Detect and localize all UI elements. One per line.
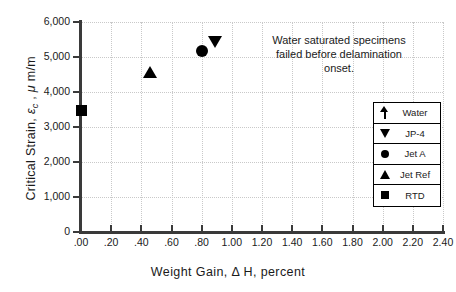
x-axis-tick — [291, 225, 293, 232]
legend-item-rtd[interactable]: RTD — [374, 185, 440, 206]
chart-figure: Critical Strain, εc , μ m/m Weight Gain,… — [0, 0, 456, 292]
y-axis-tick — [73, 231, 80, 233]
x-axis-tick — [412, 225, 414, 232]
chart-legend: Water JP-4 Jet A Jet Ref RTD — [373, 102, 441, 207]
data-point-rtd — [76, 105, 87, 116]
legend-item-jet-ref[interactable]: Jet Ref — [374, 165, 440, 186]
legend-label: Jet Ref — [392, 169, 440, 180]
y-axis-tick — [73, 126, 80, 128]
triangle-up-icon — [377, 170, 392, 179]
y-axis-tick-label: 2,000 — [26, 155, 70, 167]
gridline-vertical — [443, 22, 444, 232]
x-axis-tick — [261, 225, 263, 232]
legend-item-jet-a[interactable]: Jet A — [374, 144, 440, 165]
x-axis-tick — [442, 225, 444, 232]
x-axis-tick — [321, 225, 323, 232]
circle-icon — [377, 150, 392, 158]
y-axis-tick — [73, 196, 80, 198]
y-axis-tick-label: 1,000 — [26, 190, 70, 202]
data-point-jet-a — [196, 45, 208, 57]
x-axis-tick — [382, 225, 384, 232]
x-axis-tick — [231, 225, 233, 232]
gridline-horizontal — [81, 92, 443, 93]
y-axis-tick-label: 4,000 — [26, 85, 70, 97]
data-point-jp-4 — [208, 36, 222, 48]
annotation-line-3: onset. — [236, 61, 442, 75]
y-axis-tick — [73, 56, 80, 58]
x-axis-tick-label: 2.40 — [421, 236, 456, 248]
y-axis-tick — [73, 91, 80, 93]
y-axis-tick-label: 5,000 — [26, 50, 70, 62]
x-axis-tick — [352, 225, 354, 232]
annotation-line-1: Water saturated specimens — [236, 33, 442, 47]
y-axis-tick — [73, 21, 80, 23]
data-point-jet-ref — [143, 66, 157, 78]
x-axis-tick — [201, 225, 203, 232]
x-axis-tick — [110, 225, 112, 232]
triangle-down-icon — [377, 129, 392, 138]
legend-label: Water — [392, 107, 440, 118]
x-axis-tick — [171, 225, 173, 232]
y-axis-tick — [73, 161, 80, 163]
square-icon — [377, 191, 392, 199]
chart-annotation: Water saturated specimens failed before … — [236, 33, 442, 75]
y-axis-tick-label: 3,000 — [26, 120, 70, 132]
legend-item-water[interactable]: Water — [374, 103, 440, 124]
legend-label: Jet A — [392, 148, 440, 159]
x-axis-tick — [140, 225, 142, 232]
x-axis-tick — [80, 225, 82, 232]
y-axis-tick-label: 6,000 — [26, 15, 70, 27]
gridline-horizontal — [81, 22, 443, 23]
legend-item-jp-4[interactable]: JP-4 — [374, 124, 440, 145]
arrow-up-icon — [377, 106, 392, 119]
x-axis-title: Weight Gain, Δ H, percent — [0, 265, 456, 279]
legend-label: RTD — [392, 190, 440, 201]
annotation-line-2: failed before delamination — [236, 47, 442, 61]
legend-label: JP-4 — [392, 128, 440, 139]
